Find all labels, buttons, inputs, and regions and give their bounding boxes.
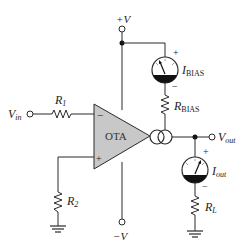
ground-icon (187, 231, 203, 237)
ota-inverting-input: − (97, 109, 103, 121)
r2-label: R2 (66, 194, 78, 209)
ota-label: OTA (105, 130, 127, 142)
r2-resistor (54, 157, 94, 226)
negative-supply-label: −V (113, 230, 128, 242)
iout-meter (182, 157, 208, 183)
ibias-minus: − (172, 81, 178, 92)
iout-plus: + (203, 146, 209, 157)
ibias-plus: + (173, 47, 179, 58)
ibias-meter (152, 57, 178, 83)
iout-label: Iout (211, 164, 227, 179)
positive-supply-terminal (119, 26, 125, 32)
vout-label: Vout (218, 130, 236, 145)
output-terminal (209, 134, 215, 140)
ibias-label: IBIAS (181, 63, 204, 78)
vin-label: Vin (8, 107, 22, 122)
r1-resistor (33, 110, 94, 118)
circuit-diagram: +V + − IBIAS RBIAS OTA − + Vout + − Iou (0, 0, 251, 252)
iout-minus: − (202, 181, 208, 192)
rl-resistor (191, 183, 199, 231)
negative-supply-terminal (119, 219, 125, 225)
rl-label: RL (204, 200, 217, 215)
rbias-resistor (161, 83, 169, 130)
input-terminal (27, 111, 33, 117)
bias-wire (122, 43, 165, 57)
ota-noninverting-input: + (96, 153, 102, 164)
r1-label: R1 (54, 93, 66, 108)
ground-icon (50, 226, 66, 232)
positive-supply-label: +V (116, 13, 131, 25)
current-source-icon (150, 130, 164, 144)
rbias-label: RBIAS (173, 99, 200, 114)
